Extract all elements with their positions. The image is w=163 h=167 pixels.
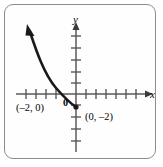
- x-intercept-label: (–2, 0): [16, 103, 44, 114]
- y-axis: [73, 22, 80, 152]
- curve-arrowhead: [26, 24, 35, 36]
- y-intercept-label: (0, –2): [85, 112, 113, 123]
- curve-endpoint-dot: [73, 104, 78, 109]
- graph-figure: y x 0 (–2, 0) (0, –2): [0, 0, 163, 167]
- x-axis-label: x: [150, 89, 155, 100]
- plotted-curve: [26, 24, 79, 110]
- coordinate-plot: [0, 0, 163, 167]
- y-axis-label: y: [73, 14, 78, 25]
- origin-label: 0: [63, 98, 68, 108]
